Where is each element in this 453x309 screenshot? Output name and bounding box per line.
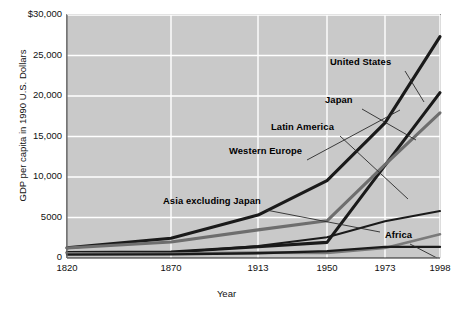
series-label-western-europe: Western Europe [229, 145, 302, 156]
x-axis-title: Year [0, 288, 453, 299]
series-label-united-states: United States [330, 56, 391, 67]
y-tick-label: 10,000 [2, 170, 62, 181]
x-tick-label: 1870 [160, 262, 181, 273]
series-label-africa: Africa [385, 229, 412, 240]
series-label-japan: Japan [325, 94, 353, 105]
x-tick-label: 1998 [429, 262, 450, 273]
plot-area [66, 14, 441, 258]
gdp-per-capita-line-chart: GDP per capita in 1990 U.S. Dollars 0500… [0, 0, 453, 309]
y-tick-label: 20,000 [2, 89, 62, 100]
y-tick-label: $30,000 [2, 8, 62, 19]
y-tick-label: 0 [2, 251, 62, 262]
y-tick-label: 5000 [2, 211, 62, 222]
series-label-asia-excluding-japan: Asia excluding Japan [163, 195, 261, 206]
x-tick-label: 1913 [247, 262, 268, 273]
x-tick-label: 1820 [56, 262, 77, 273]
x-tick-label: 1950 [316, 262, 337, 273]
y-axis-tick-labels: 0500010,00015,00020,00025,000$30,000 [0, 0, 62, 309]
y-tick-label: 25,000 [2, 49, 62, 60]
y-tick-label: 15,000 [2, 130, 62, 141]
x-tick-label: 1973 [374, 262, 395, 273]
series-label-latin-america: Latin America [271, 121, 334, 132]
